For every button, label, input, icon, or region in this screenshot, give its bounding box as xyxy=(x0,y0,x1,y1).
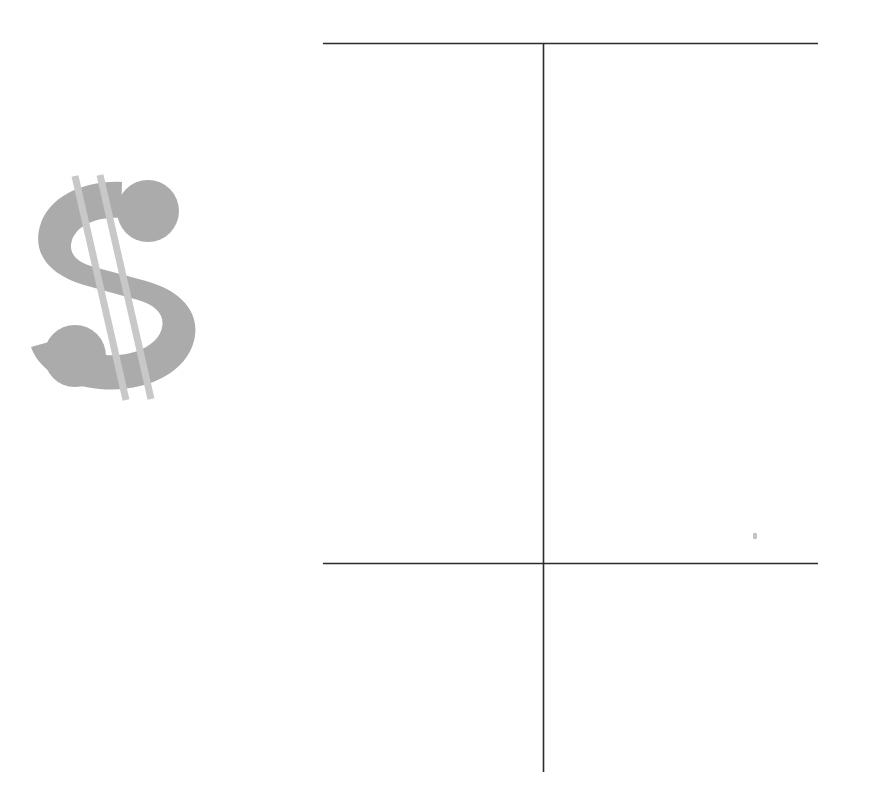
scan-speck xyxy=(753,533,757,539)
cross-rule-diagram xyxy=(0,0,874,794)
page-canvas xyxy=(0,0,874,794)
cross-rule-svg xyxy=(0,0,874,794)
